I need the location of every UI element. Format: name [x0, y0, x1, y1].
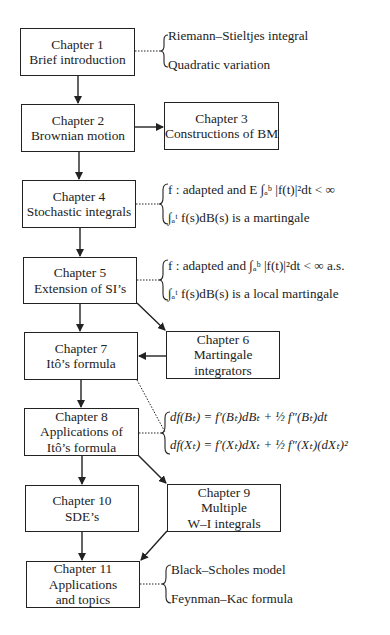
edges-layer [0, 0, 390, 635]
node-label: Extension of SI’s [34, 281, 126, 297]
node-label: Chapter 10 [52, 493, 111, 509]
node-label: Applications of [40, 424, 123, 440]
node-label: Chapter 5 [54, 265, 106, 281]
node-label: Multiple [201, 500, 247, 516]
node-label: Chapter 6 [197, 332, 249, 348]
brace-ch11 [162, 565, 171, 603]
node-chapter-5: Chapter 5 Extension of SI’s [23, 257, 137, 304]
node-label: W–I integrals [187, 516, 260, 532]
note-ch5-line1: f : adapted and ∫ₐᵇ |f(t)|²dt < ∞ a.s. [168, 258, 345, 273]
note-ch11-line2: Feynman–Kac formula [171, 591, 293, 606]
brace-ch8 [161, 412, 170, 454]
node-label: and topics [56, 592, 111, 608]
node-chapter-9: Chapter 9 Multiple W–I integrals [167, 484, 281, 532]
edge-ch9-ch11 [141, 531, 167, 560]
note-ito-line2: df(Xₜ) = f′(Xₜ)dXₜ + ½ f″(Xₜ)(dXₜ)² [170, 438, 348, 453]
node-label: SDE’s [65, 509, 99, 525]
node-chapter-7: Chapter 7 Itô’s formula [24, 332, 138, 380]
brace-ch5 [159, 260, 168, 300]
node-label: Chapter 9 [198, 485, 250, 501]
edge-ch5-ch6 [137, 303, 165, 330]
node-label: Chapter 2 [52, 113, 104, 129]
node-chapter-2: Chapter 2 Brownian motion [21, 104, 135, 152]
note-ch1-line2: Quadratic variation [168, 57, 270, 72]
note-ch11-line1: Black–Scholes model [171, 562, 286, 577]
note-ch4-line1: f : adapted and E ∫ₐᵇ |f(t)|²dt < ∞ [168, 182, 335, 197]
note-ch4-line2: ∫ₐᵗ f(s)dB(s) is a martingale [168, 210, 310, 225]
node-label: Chapter 8 [55, 409, 107, 425]
brace-ch4 [159, 184, 168, 224]
node-label: integrators [194, 363, 251, 379]
node-chapter-3: Chapter 3 Constructions of BM [164, 102, 279, 150]
note-ch1-line1: Riemann–Stieltjes integral [168, 28, 308, 43]
node-label: Itô’s formula [47, 440, 117, 456]
node-label: Chapter 11 [54, 561, 113, 577]
node-label: Martingale [194, 347, 253, 363]
note-ito-line1: df(Bₜ) = f′(Bₜ)dBₜ + ½ f″(Bₜ)dt [170, 410, 327, 425]
node-label: Stochastic integrals [27, 204, 132, 220]
node-chapter-6: Chapter 6 Martingale integrators [166, 331, 280, 379]
node-chapter-10: Chapter 10 SDE’s [25, 485, 139, 532]
dotted-ch7-note [137, 380, 165, 432]
node-chapter-8: Chapter 8 Applications of Itô’s formula [24, 408, 139, 456]
node-label: Chapter 1 [51, 37, 103, 53]
node-label: Itô’s formula [46, 356, 116, 372]
brace-ch1 [160, 35, 168, 67]
node-chapter-1: Chapter 1 Brief introduction [20, 28, 135, 76]
node-label: Brownian motion [31, 128, 125, 144]
edge-ch8-ch9 [138, 455, 166, 483]
node-label: Chapter 3 [195, 111, 247, 127]
note-ch5-line2: ∫ₐᵗ f(s)dB(s) is a local martingale [168, 286, 339, 301]
node-label: Applications [49, 577, 117, 593]
node-label: Chapter 4 [53, 189, 105, 205]
node-label: Constructions of BM [165, 126, 278, 142]
node-chapter-4: Chapter 4 Stochastic integrals [22, 180, 136, 228]
node-chapter-11: Chapter 11 Applications and topics [26, 561, 140, 608]
node-label: Chapter 7 [55, 341, 107, 357]
node-label: Brief introduction [29, 52, 125, 68]
